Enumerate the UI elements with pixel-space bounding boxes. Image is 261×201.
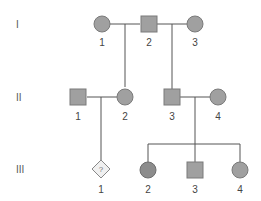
- id-label: 1: [75, 111, 81, 122]
- id-label: 3: [192, 37, 198, 48]
- pedigree-chart: I II III 1 2 3 1 2 3 4 ? 1 2 3 4: [0, 0, 261, 201]
- generation-label-III: III: [16, 164, 24, 175]
- generation-label-I: I: [16, 19, 19, 30]
- individual-I-3-female: [187, 16, 203, 32]
- id-label: 4: [215, 111, 221, 122]
- individual-II-2-female: [117, 89, 133, 105]
- individual-I-1-female: [94, 16, 110, 32]
- individual-III-4-female: [232, 162, 248, 178]
- id-label: 3: [192, 184, 198, 195]
- individual-II-1-male: [70, 89, 86, 105]
- unknown-mark: ?: [99, 165, 104, 174]
- id-label: 2: [122, 111, 128, 122]
- id-label: 4: [237, 184, 243, 195]
- id-label: 2: [146, 37, 152, 48]
- individual-II-3-male: [164, 89, 180, 105]
- id-label: 3: [169, 111, 175, 122]
- individual-I-2-male: [141, 16, 157, 32]
- generation-label-II: II: [16, 92, 22, 103]
- individual-III-3-male: [187, 162, 203, 178]
- id-label: 1: [99, 37, 105, 48]
- individual-III-2-female: [140, 162, 156, 178]
- id-label: 2: [145, 184, 151, 195]
- individual-II-4-female: [210, 89, 226, 105]
- id-label: 1: [98, 184, 104, 195]
